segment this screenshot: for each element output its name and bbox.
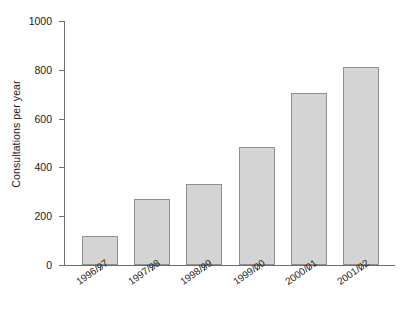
- bar: [134, 199, 170, 265]
- plot-area: 02004006008001000 1996/971997/981998/991…: [0, 0, 413, 318]
- y-axis-tick-label: 0: [46, 259, 56, 271]
- bar: [291, 93, 327, 265]
- y-axis-tick: [59, 265, 64, 266]
- y-axis-tick-label: 400: [34, 161, 56, 173]
- x-axis-line: [64, 265, 395, 266]
- bar: [239, 147, 275, 265]
- y-axis-tick-label: 1000: [29, 15, 56, 27]
- y-axis-tick-label: 800: [34, 64, 56, 76]
- y-axis-tick: [59, 216, 64, 217]
- y-axis-tick: [59, 119, 64, 120]
- y-axis-tick: [59, 21, 64, 22]
- bar: [343, 67, 379, 265]
- y-axis-line: [64, 21, 65, 266]
- y-axis-tick: [59, 70, 64, 71]
- y-axis-tick: [59, 167, 64, 168]
- bar-chart-figure: Consultations per year 02004006008001000…: [0, 0, 413, 318]
- bar: [186, 184, 222, 265]
- y-axis-tick-label: 600: [34, 113, 56, 125]
- y-axis-tick-label: 200: [34, 210, 56, 222]
